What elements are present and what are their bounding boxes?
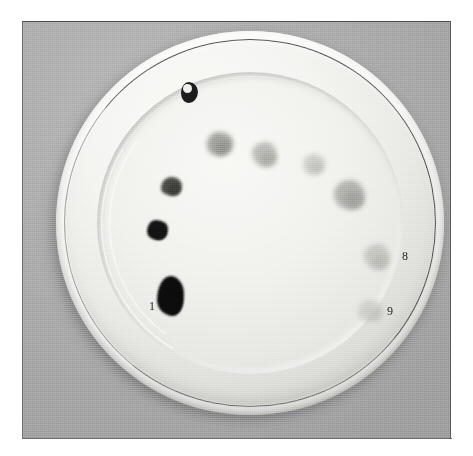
- stain-label-1: 1: [149, 300, 155, 312]
- stain-lobe: [310, 162, 324, 174]
- photo-right-edge: [450, 21, 451, 439]
- stain-lobe: [344, 191, 363, 208]
- stain-lobe: [372, 254, 388, 269]
- stain-label-8: 8: [402, 250, 408, 262]
- stain-lobe: [366, 308, 382, 321]
- stain-lobe: [260, 152, 276, 166]
- stain-label-9: 9: [387, 305, 393, 317]
- photograph: 891: [22, 21, 451, 439]
- photo-bottom-edge: [22, 438, 452, 439]
- stain-ring-blob-centre: [183, 84, 192, 93]
- photo-figure: 891: [0, 0, 473, 456]
